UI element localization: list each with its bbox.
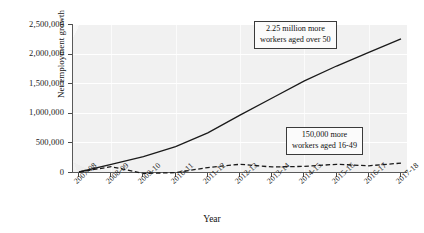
y-tick-label: 0 xyxy=(0,167,64,177)
y-tick-mark xyxy=(68,83,72,84)
y-tick-label: 1,000,000 xyxy=(0,107,64,117)
y-tick-label: 1,500,000 xyxy=(0,78,64,88)
y-tick-label: 2,000,000 xyxy=(0,48,64,58)
y-tick-mark xyxy=(68,142,72,143)
employment-growth-chart: Net employment growth 0500,0001,000,0001… xyxy=(0,0,424,233)
annotation-over-50-line1: 2.25 million more xyxy=(260,24,331,35)
annotation-over-50: 2.25 million more workers aged over 50 xyxy=(254,21,337,49)
annotation-16-49-line1: 150,000 more xyxy=(292,130,357,141)
annotation-16-49: 150,000 more workers aged 16-49 xyxy=(286,127,363,155)
y-tick-mark xyxy=(68,24,72,25)
annotation-16-49-line2: workers aged 16-49 xyxy=(292,141,357,152)
y-tick-mark xyxy=(68,113,72,114)
y-tick-label: 500,000 xyxy=(0,137,64,147)
annotation-over-50-line2: workers aged over 50 xyxy=(260,35,331,46)
y-tick-label: 2,500,000 xyxy=(0,19,64,29)
y-tick-mark xyxy=(68,54,72,55)
y-tick-mark xyxy=(68,172,72,173)
x-axis-title: Year xyxy=(0,214,424,224)
